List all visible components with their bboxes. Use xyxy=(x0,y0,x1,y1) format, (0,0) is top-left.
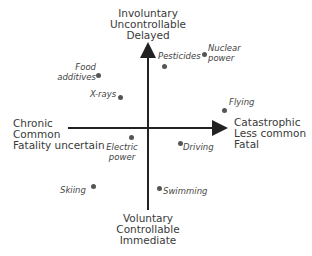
pesticides-dot xyxy=(162,64,167,69)
flying-label: Flying xyxy=(229,98,254,108)
skiing-dot xyxy=(91,184,96,189)
right-axis-label: Catastrophic Less common Fatal xyxy=(234,117,306,150)
swimming-label: Swimming xyxy=(163,187,207,197)
label-line: Driving xyxy=(183,143,214,153)
electric-power-label: Electric power xyxy=(104,143,140,162)
label-line: Skiing xyxy=(60,186,86,196)
right-label-line: Fatal xyxy=(234,139,306,150)
label-line: X-rays xyxy=(90,90,116,100)
nuclear-power-label: Nuclear power xyxy=(208,44,241,63)
x-rays-dot xyxy=(118,95,123,100)
pesticides-label: Pesticides xyxy=(158,52,201,62)
label-line: power xyxy=(208,54,241,64)
x-rays-label: X-rays xyxy=(90,90,116,100)
left-axis-label: Chronic Common Fatality uncertain xyxy=(13,118,105,151)
flying-dot xyxy=(222,108,227,113)
left-label-line: Fatality uncertain xyxy=(13,140,105,151)
skiing-label: Skiing xyxy=(60,186,86,196)
electric-power-dot xyxy=(129,135,134,140)
label-line: additives xyxy=(54,73,96,83)
driving-label: Driving xyxy=(183,143,214,153)
label-line: Swimming xyxy=(163,187,207,197)
risk-perception-diagram: Involuntary Uncontrollable Delayed Volun… xyxy=(0,0,312,256)
label-line: Flying xyxy=(229,98,254,108)
bottom-axis-label: Voluntary Controllable Immediate xyxy=(98,213,198,246)
label-line: power xyxy=(104,153,140,163)
food-additives-label: Food additives xyxy=(54,63,96,82)
label-line: Pesticides xyxy=(158,52,201,62)
bottom-label-line: Immediate xyxy=(98,235,198,246)
top-axis-label: Involuntary Uncontrollable Delayed xyxy=(98,8,198,41)
swimming-dot xyxy=(157,186,162,191)
food-additives-dot xyxy=(96,73,101,78)
nuclear-power-dot xyxy=(202,52,207,57)
top-label-line: Delayed xyxy=(98,30,198,41)
